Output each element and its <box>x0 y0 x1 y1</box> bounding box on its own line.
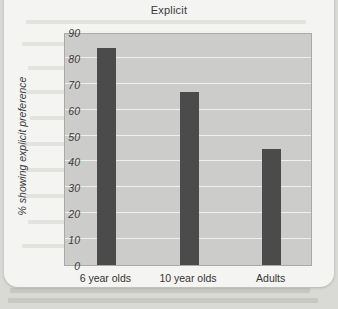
gridline <box>65 31 311 32</box>
bar <box>262 149 281 266</box>
y-axis-tick-label: 70 <box>40 79 80 91</box>
y-axis-tick-label: 0 <box>40 260 80 272</box>
chart-title: Explicit <box>4 4 334 16</box>
x-axis-tick-label: 6 year olds <box>80 272 131 284</box>
figure-card: Explicit % showing explicit preference 9… <box>4 0 334 287</box>
y-axis-tick-label: 50 <box>40 131 80 143</box>
plot-area <box>64 33 312 266</box>
y-axis-label: % showing explicit preference <box>16 61 28 231</box>
y-axis-tick-label: 10 <box>40 234 80 246</box>
y-axis-tick-label: 30 <box>40 182 80 194</box>
y-axis-tick-label: 20 <box>40 208 80 220</box>
y-axis-tick-label: 90 <box>40 27 80 39</box>
x-axis-tick-label: Adults <box>256 272 285 284</box>
x-axis-tick-label: 10 year olds <box>159 272 216 284</box>
bar <box>97 48 116 265</box>
y-axis-tick-label: 80 <box>40 53 80 65</box>
y-axis-tick-label: 40 <box>40 156 80 168</box>
bar-chart: Explicit % showing explicit preference 9… <box>4 0 334 287</box>
y-axis-tick-label: 60 <box>40 105 80 117</box>
bar <box>180 92 199 265</box>
